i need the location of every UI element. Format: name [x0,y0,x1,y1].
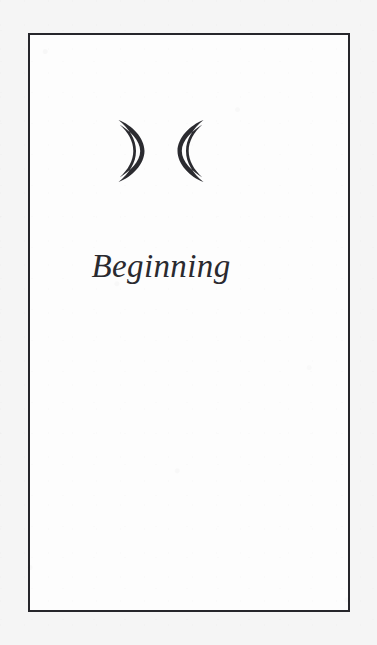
moon-symbol-pair [0,118,322,184]
card-title: Beginning [0,245,322,287]
waning-crescent-moon-icon [174,119,210,183]
tarot-card-page: Beginning [0,0,377,645]
card-content: Beginning [0,0,322,579]
waxing-crescent-moon-icon [112,119,148,183]
